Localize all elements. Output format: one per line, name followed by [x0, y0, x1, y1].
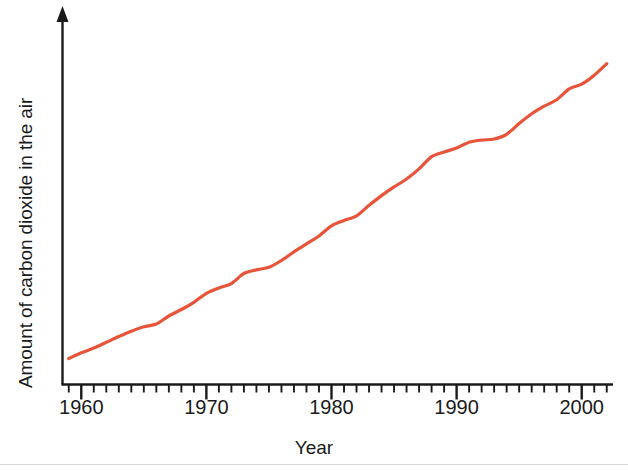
bottom-divider [0, 464, 628, 465]
x-tick-label-1970: 1970 [161, 396, 251, 419]
x-tick-label-1960: 1960 [36, 396, 126, 419]
y-axis-arrow-icon [57, 6, 69, 22]
x-tick-label-2000: 2000 [537, 396, 627, 419]
co2-line-chart-figure: Amount of carbon dioxide in the air 1960… [0, 0, 628, 470]
co2-trend-line [69, 64, 607, 359]
x-tick-label-1990: 1990 [412, 396, 502, 419]
x-tick-label-1980: 1980 [287, 396, 377, 419]
x-axis-label: Year [0, 437, 628, 459]
y-axis [57, 6, 69, 385]
